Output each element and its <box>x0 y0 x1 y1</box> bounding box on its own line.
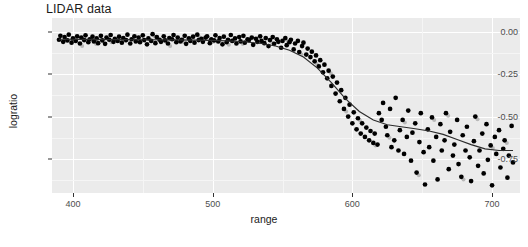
y-tick-mark <box>48 31 52 32</box>
data-point <box>258 34 263 39</box>
data-point <box>184 41 189 46</box>
data-point <box>463 148 468 153</box>
x-tick-mark <box>73 193 74 197</box>
data-point <box>66 32 71 37</box>
data-point <box>402 152 407 157</box>
y-tick-mark <box>48 116 52 117</box>
data-point <box>308 55 313 60</box>
data-point <box>381 101 386 106</box>
plot-panel <box>52 18 520 193</box>
data-point <box>360 121 365 126</box>
x-tick-label: 600 <box>345 199 360 209</box>
data-point <box>283 36 288 41</box>
data-point <box>465 124 470 129</box>
data-point <box>205 34 210 39</box>
data-point <box>456 162 461 167</box>
data-point <box>108 33 113 38</box>
data-point <box>388 107 393 112</box>
data-point <box>413 121 418 126</box>
data-point <box>128 41 133 46</box>
data-point <box>170 37 175 42</box>
data-point <box>99 33 104 38</box>
data-point <box>379 118 384 123</box>
data-point <box>120 40 125 45</box>
data-point <box>446 167 451 172</box>
data-point <box>132 34 137 39</box>
data-point <box>460 133 465 138</box>
chart-title: LIDAR data <box>46 2 112 16</box>
data-point <box>367 138 372 143</box>
data-point <box>364 125 369 130</box>
smooth-fit-line <box>59 39 513 150</box>
data-point <box>493 135 498 140</box>
x-tick-mark <box>213 193 214 197</box>
data-point <box>337 99 342 104</box>
data-point <box>356 116 361 121</box>
data-point <box>476 163 481 168</box>
data-point <box>396 148 401 153</box>
data-point <box>330 74 335 79</box>
data-point <box>161 34 166 39</box>
data-point <box>434 135 439 140</box>
data-point <box>414 170 419 175</box>
data-point <box>140 33 145 38</box>
data-point <box>228 33 233 38</box>
data-point <box>78 41 83 46</box>
data-point <box>237 35 242 40</box>
x-axis-title: range <box>0 213 528 225</box>
data-point <box>153 41 158 46</box>
data-point <box>69 40 74 45</box>
data-point <box>481 171 486 176</box>
x-tick-label: 700 <box>485 199 500 209</box>
data-point <box>398 128 403 133</box>
data-point <box>502 138 507 143</box>
data-point <box>418 111 423 116</box>
data-point <box>404 135 409 140</box>
data-point <box>276 39 281 44</box>
x-tick-label: 400 <box>65 199 80 209</box>
data-point <box>171 33 176 38</box>
data-point <box>195 32 200 37</box>
data-point <box>304 52 309 57</box>
data-point <box>326 68 331 73</box>
data-point <box>312 59 317 64</box>
data-point <box>484 122 489 127</box>
data-point <box>233 36 238 41</box>
data-point <box>423 182 428 187</box>
data-point <box>410 130 415 135</box>
data-point <box>220 42 225 47</box>
data-point <box>372 131 377 136</box>
x-tick-label: 500 <box>205 199 220 209</box>
y-tick-label: -0.25 <box>497 69 518 79</box>
data-point <box>354 127 359 132</box>
data-point <box>138 40 143 45</box>
data-point <box>385 133 390 138</box>
data-point <box>58 33 63 38</box>
data-point <box>490 183 495 188</box>
data-point <box>335 80 340 85</box>
data-point <box>296 39 301 44</box>
data-point <box>314 53 319 58</box>
data-point <box>421 150 426 155</box>
data-point <box>480 131 485 136</box>
y-tick-label: 0.00 <box>500 27 518 37</box>
data-point <box>322 62 327 67</box>
data-point <box>182 33 187 38</box>
data-point <box>301 40 306 45</box>
data-point <box>103 41 108 46</box>
y-axis-title: logratio <box>7 76 19 146</box>
y-tick-mark <box>48 74 52 75</box>
data-point <box>435 177 440 182</box>
data-point <box>431 158 436 163</box>
y-tick-label: -0.50 <box>497 112 518 122</box>
data-point <box>448 129 453 134</box>
data-point <box>191 34 196 39</box>
data-point <box>371 141 376 146</box>
x-tick-mark <box>352 193 353 197</box>
data-point <box>83 33 88 38</box>
data-point <box>351 110 356 115</box>
data-point <box>192 40 197 45</box>
data-point <box>289 37 294 42</box>
data-point <box>263 36 268 41</box>
scatter-data-layer <box>52 18 520 193</box>
